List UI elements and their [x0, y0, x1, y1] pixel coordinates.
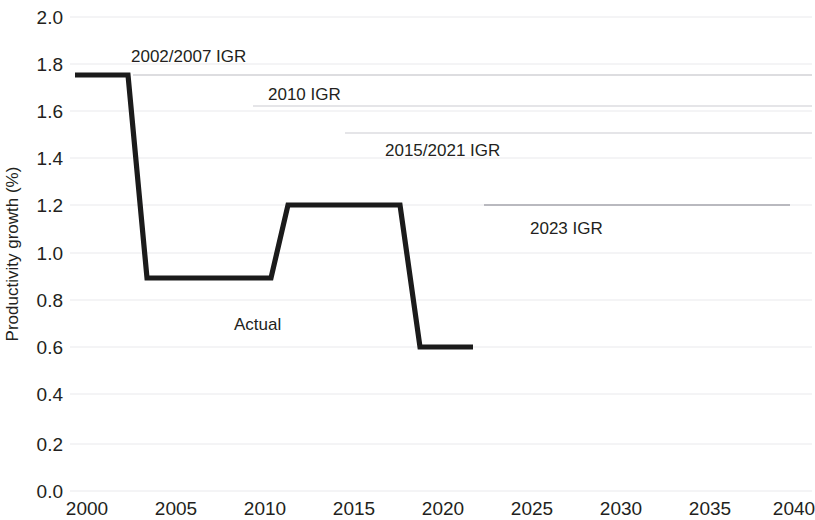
- chart-canvas: 2002/2007 IGR 2010 IGR 2015/2021 IGR 202…: [0, 0, 815, 520]
- y-axis-title: Productivity growth (%): [3, 167, 22, 342]
- x-tick-2010: 2010: [244, 498, 286, 519]
- annotation-igr-2023: 2023 IGR: [530, 219, 603, 238]
- annotation-igr-2002-2007: 2002/2007 IGR: [131, 47, 246, 66]
- y-tick-0-8: 0.8: [37, 290, 63, 311]
- productivity-growth-chart: 2002/2007 IGR 2010 IGR 2015/2021 IGR 202…: [0, 0, 815, 520]
- x-tick-2030: 2030: [600, 498, 642, 519]
- y-tick-2-0: 2.0: [37, 7, 63, 28]
- y-tick-0-2: 0.2: [37, 434, 63, 455]
- x-tick-2020: 2020: [422, 498, 464, 519]
- y-tick-0-4: 0.4: [37, 384, 64, 405]
- x-tick-2000: 2000: [66, 498, 108, 519]
- y-tick-1-8: 1.8: [37, 54, 63, 75]
- x-tick-2025: 2025: [511, 498, 553, 519]
- x-tick-2015: 2015: [333, 498, 375, 519]
- annotation-igr-2010: 2010 IGR: [268, 85, 341, 104]
- x-axis-tick-labels: 2000 2005 2010 2015 2020 2025 2030 2035 …: [66, 498, 815, 519]
- annotation-igr-2015-2021: 2015/2021 IGR: [385, 141, 500, 160]
- y-tick-1-6: 1.6: [37, 101, 63, 122]
- x-tick-2035: 2035: [689, 498, 731, 519]
- annotation-actual: Actual: [234, 315, 281, 334]
- y-tick-0-6: 0.6: [37, 337, 63, 358]
- y-tick-1-0: 1.0: [37, 243, 63, 264]
- x-tick-2005: 2005: [155, 498, 197, 519]
- y-tick-1-4: 1.4: [37, 148, 64, 169]
- y-tick-0-0: 0.0: [37, 481, 63, 502]
- x-tick-2040: 2040: [773, 498, 815, 519]
- y-tick-1-2: 1.2: [37, 195, 63, 216]
